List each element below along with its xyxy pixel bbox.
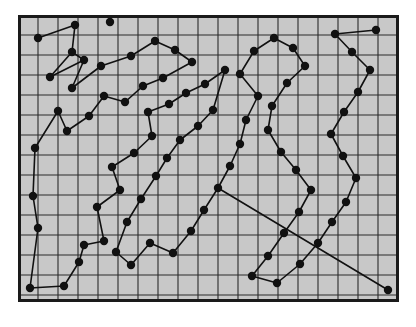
graph-node [75,258,83,266]
scatter-graph-figure [0,0,416,327]
graph-node [187,227,195,235]
graph-node [112,248,120,256]
graph-node [214,184,222,192]
graph-node [248,272,256,280]
graph-node [34,224,42,232]
graph-node [236,70,244,78]
graph-node [314,239,322,247]
graph-node [93,203,101,211]
graph-node [182,89,190,97]
graph-node [254,92,262,100]
graph-node [123,218,131,226]
graph-node [60,282,68,290]
graph-node [295,208,303,216]
graph-node [366,66,374,74]
graph-node [354,88,362,96]
graph-node [31,144,39,152]
graph-node [97,62,105,70]
graph-node [80,241,88,249]
graph-node [152,172,160,180]
graph-node [121,98,129,106]
graph-node [194,122,202,130]
graph-node [108,163,116,171]
graph-node [116,186,124,194]
graph-node [34,34,42,42]
graph-node [171,46,179,54]
graph-node [159,74,167,82]
graph-node [292,166,300,174]
graph-node [68,84,76,92]
graph-node [296,260,304,268]
graph-node [283,79,291,87]
graph-node [236,140,244,148]
graph-node [289,44,297,52]
graph-node [146,239,154,247]
graph-node [352,174,360,182]
graph-node [277,148,285,156]
graph-node [264,252,272,260]
graph-node [127,261,135,269]
graph-node [163,154,171,162]
graph-node [139,82,147,90]
graph-node [280,229,288,237]
graph-node [29,192,37,200]
graph-node [327,130,335,138]
graph-node [80,56,88,64]
graph-node [68,48,76,56]
graph-node [148,132,156,140]
graph-node [144,108,152,116]
graph-node [54,107,62,115]
graph-node [188,58,196,66]
graph-node [209,106,217,114]
graph-node [342,198,350,206]
graph-node [63,127,71,135]
graph-node [26,284,34,292]
graph-node [270,34,278,42]
graph-node [127,52,135,60]
graph-node [100,92,108,100]
graph-node [71,21,79,29]
graph-node [384,286,392,294]
graph-node [165,100,173,108]
plot-canvas [0,0,416,327]
graph-node [242,116,250,124]
graph-node [339,152,347,160]
graph-node [85,112,93,120]
graph-node [46,73,54,81]
graph-node [200,206,208,214]
graph-node [307,186,315,194]
graph-node [348,48,356,56]
graph-node [151,37,159,45]
graph-node [372,26,380,34]
graph-node [130,149,138,157]
graph-node [273,279,281,287]
graph-node [176,136,184,144]
graph-node [169,249,177,257]
graph-node [301,62,309,70]
graph-node [221,66,229,74]
graph-node [331,30,339,38]
graph-node [100,237,108,245]
graph-node [137,195,145,203]
graph-node [328,218,336,226]
graph-node [250,47,258,55]
graph-node [340,108,348,116]
graph-node [268,102,276,110]
graph-node [201,80,209,88]
graph-node [226,162,234,170]
graph-node [106,18,114,26]
graph-node [264,126,272,134]
